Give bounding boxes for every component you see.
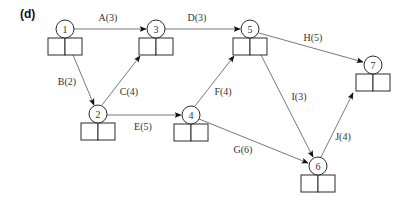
edge-label: E(5) — [134, 121, 152, 133]
node-2: 2 — [81, 105, 115, 140]
edge-arrow — [261, 55, 313, 157]
edge-C: C(4) — [102, 56, 140, 105]
node-label: 4 — [189, 110, 194, 121]
earliest-time-box — [139, 38, 156, 55]
edge-G: G(6) — [199, 119, 308, 163]
nodes-layer: 1234567 — [48, 20, 390, 192]
latest-time-box — [250, 38, 267, 55]
latest-time-box — [191, 124, 208, 141]
node-label: 6 — [316, 161, 321, 172]
edge-B: B(2) — [58, 55, 94, 105]
latest-time-box — [318, 175, 335, 192]
node-5: 5 — [233, 20, 267, 55]
earliest-time-box — [174, 124, 191, 141]
node-label: 1 — [63, 24, 68, 35]
edge-I: I(3) — [261, 55, 313, 157]
edge-E: E(5) — [107, 115, 181, 133]
edge-H: H(5) — [259, 32, 363, 62]
edge-label: D(3) — [188, 12, 207, 24]
edge-arrow — [195, 56, 234, 106]
node-label: 3 — [154, 24, 159, 35]
latest-time-box — [373, 74, 390, 91]
activity-network-diagram: (d) A(3)B(2)C(4)D(3)E(5)F(4)G(6)H(5)I(3)… — [0, 0, 411, 205]
latest-time-box — [98, 123, 115, 140]
node-label: 2 — [96, 109, 101, 120]
edge-arrow — [199, 119, 308, 163]
earliest-time-box — [356, 74, 373, 91]
earliest-time-box — [81, 123, 98, 140]
edge-F: F(4) — [195, 56, 234, 106]
node-1: 1 — [48, 20, 82, 55]
edge-label: A(3) — [99, 12, 118, 24]
edge-D: D(3) — [165, 12, 240, 29]
node-label: 7 — [371, 60, 376, 71]
earliest-time-box — [233, 38, 250, 55]
latest-time-box — [156, 38, 173, 55]
edge-J: J(4) — [321, 93, 353, 157]
edge-label: J(4) — [335, 131, 351, 143]
edge-label: I(3) — [292, 91, 307, 103]
network-svg: A(3)B(2)C(4)D(3)E(5)F(4)G(6)H(5)I(3)J(4)… — [0, 0, 411, 205]
edge-label: C(4) — [120, 86, 138, 98]
earliest-time-box — [301, 175, 318, 192]
edge-arrow — [102, 56, 140, 105]
node-3: 3 — [139, 20, 173, 55]
edge-arrow — [321, 93, 353, 157]
earliest-time-box — [48, 38, 65, 55]
edge-label: G(6) — [234, 144, 253, 156]
panel-label: (d) — [20, 7, 35, 21]
edge-label: B(2) — [58, 76, 76, 88]
latest-time-box — [65, 38, 82, 55]
edge-label: F(4) — [214, 86, 231, 98]
edge-label: H(5) — [304, 32, 323, 44]
node-label: 5 — [248, 24, 253, 35]
node-4: 4 — [174, 106, 208, 141]
edge-A: A(3) — [74, 12, 146, 29]
